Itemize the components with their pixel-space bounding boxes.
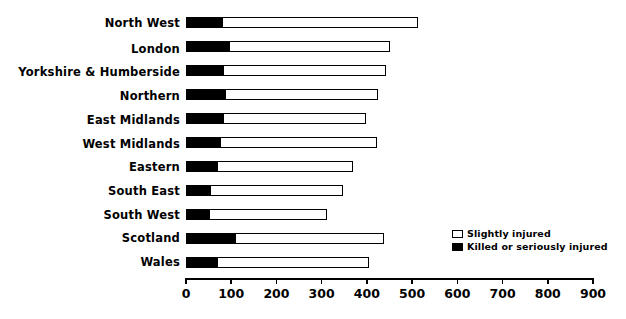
x-axis-tick-label: 200 — [263, 286, 289, 301]
bar-segment-slightly-injured — [225, 89, 378, 100]
bar-segment-slightly-injured — [217, 257, 369, 268]
category-label-scotland: Scotland — [122, 232, 180, 244]
x-axis-tick-label: 600 — [444, 286, 470, 301]
bar-segment-killed-or-seriously-injured — [186, 185, 210, 196]
bar-segment-killed-or-seriously-injured — [186, 89, 225, 100]
legend: Slightly injured Killed or seriously inj… — [452, 228, 608, 254]
x-axis-tick — [185, 278, 187, 284]
legend-swatch-filled-icon — [452, 243, 463, 251]
bar-segment-killed-or-seriously-injured — [186, 257, 217, 268]
x-axis-tick-label: 400 — [354, 286, 380, 301]
bar-segment-killed-or-seriously-injured — [186, 209, 209, 220]
x-axis-tick-label: 700 — [490, 286, 516, 301]
bar-segment-slightly-injured — [229, 41, 390, 52]
bar-segment-killed-or-seriously-injured — [186, 161, 217, 172]
bar-segment-slightly-injured — [223, 113, 366, 124]
bar-segment-slightly-injured — [209, 209, 327, 220]
bar-chart: North West London Yorkshire & Humberside… — [0, 0, 626, 319]
x-axis-tick-label: 300 — [309, 286, 335, 301]
x-axis-tick-label: 100 — [218, 286, 244, 301]
bar-segment-slightly-injured — [235, 233, 384, 244]
bar-segment-killed-or-seriously-injured — [186, 137, 220, 148]
category-label-south-west: South West — [104, 209, 180, 221]
bar-segment-slightly-injured — [223, 65, 386, 76]
x-axis-tick-label: 900 — [580, 286, 606, 301]
legend-item-slightly-injured: Slightly injured — [452, 228, 608, 239]
x-axis-tick — [457, 278, 459, 284]
category-label-eastern: Eastern — [129, 161, 180, 173]
x-axis-tick — [276, 278, 278, 284]
bar-segment-killed-or-seriously-injured — [186, 17, 222, 28]
x-axis-tick-label: 0 — [182, 286, 191, 301]
category-label-north-west: North West — [105, 17, 180, 29]
bar-segment-killed-or-seriously-injured — [186, 113, 223, 124]
bar-segment-slightly-injured — [220, 137, 376, 148]
legend-label-slightly-injured: Slightly injured — [467, 228, 551, 239]
x-axis-tick — [547, 278, 549, 284]
x-axis-tick-label: 500 — [399, 286, 425, 301]
legend-label-killed-or-seriously-injured: Killed or seriously injured — [467, 241, 608, 252]
category-label-west-midlands: West Midlands — [82, 138, 180, 150]
category-label-yorkshire-humberside: Yorkshire & Humberside — [18, 66, 180, 78]
legend-swatch-hollow-icon — [452, 230, 463, 238]
category-label-northern: Northern — [120, 90, 180, 102]
bar-segment-slightly-injured — [222, 17, 418, 28]
x-axis-tick — [366, 278, 368, 284]
category-label-south-east: South East — [108, 185, 180, 197]
x-axis-tick — [411, 278, 413, 284]
x-axis-line — [186, 278, 593, 280]
x-axis-tick-label: 800 — [535, 286, 561, 301]
category-label-east-midlands: East Midlands — [87, 114, 180, 126]
x-axis-tick — [502, 278, 504, 284]
category-label-wales: Wales — [140, 256, 180, 268]
bar-segment-killed-or-seriously-injured — [186, 233, 235, 244]
x-axis-tick — [321, 278, 323, 284]
bar-segment-slightly-injured — [217, 161, 353, 172]
x-axis-tick — [230, 278, 232, 284]
x-axis-tick — [592, 278, 594, 284]
category-label-london: London — [131, 43, 180, 55]
legend-item-killed-or-seriously-injured: Killed or seriously injured — [452, 241, 608, 252]
bar-segment-killed-or-seriously-injured — [186, 65, 223, 76]
bar-segment-slightly-injured — [210, 185, 343, 196]
bar-segment-killed-or-seriously-injured — [186, 41, 229, 52]
